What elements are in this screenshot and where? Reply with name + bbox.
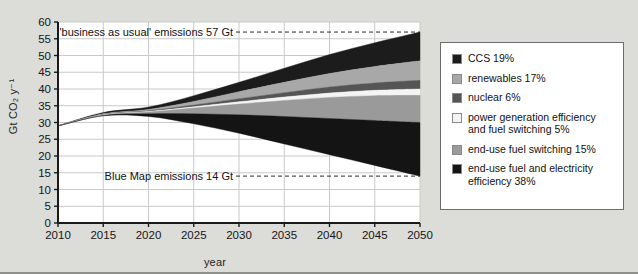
x-tick-label: 2015: [90, 229, 116, 241]
legend-label-end-use-efficiency: end-use fuel and electricity efficiency …: [468, 162, 615, 187]
legend-swatch-power-generation-efficiency: [452, 113, 462, 123]
legend-swatch-renewables: [452, 74, 462, 84]
y-tick-label: 30: [38, 117, 51, 129]
legend-item[interactable]: renewables 17%: [452, 72, 615, 85]
legend-label-nuclear: nuclear 6%: [468, 91, 521, 104]
legend-swatch-end-use-efficiency: [452, 164, 462, 174]
x-tick-label: 2030: [226, 229, 252, 241]
y-tick-label: 5: [45, 200, 51, 212]
legend-swatch-end-use-fuel-switching: [452, 145, 462, 155]
legend-item[interactable]: CCS 19%: [452, 52, 615, 65]
legend-label-power-generation-efficiency: power generation efficiency and fuel swi…: [468, 111, 615, 136]
y-tick-label: 20: [38, 150, 51, 162]
x-axis-title: year: [175, 256, 255, 268]
legend-label-end-use-fuel-switching: end-use fuel switching 15%: [468, 143, 596, 156]
y-tick-label: 50: [38, 50, 51, 62]
legend-swatch-nuclear: [452, 93, 462, 103]
x-tick-label: 2040: [317, 229, 343, 241]
y-axis-title: Gt CO₂ y⁻¹: [7, 70, 20, 144]
y-tick-label: 35: [38, 100, 51, 112]
legend-item[interactable]: power generation efficiency and fuel swi…: [452, 111, 615, 136]
chart-legend: CCS 19% renewables 17% nuclear 6% power …: [440, 42, 624, 210]
x-tick-label: 2020: [136, 229, 162, 241]
y-tick-label: 10: [38, 184, 51, 196]
x-tick-label: 2050: [407, 229, 433, 241]
x-tick-label: 2025: [181, 229, 207, 241]
emissions-wedge-chart: 'business as usual' emissions 57 GtBlue …: [0, 0, 440, 250]
legend-item[interactable]: end-use fuel and electricity efficiency …: [452, 162, 615, 187]
chart-plot-area: 'business as usual' emissions 57 GtBlue …: [0, 0, 440, 250]
x-tick-label: 2010: [45, 229, 71, 241]
legend-item[interactable]: nuclear 6%: [452, 91, 615, 104]
legend-label-renewables: renewables 17%: [468, 72, 546, 85]
annotation-business-as-usual: 'business as usual' emissions 57 Gt: [59, 26, 233, 38]
annotation-blue-map: Blue Map emissions 14 Gt: [105, 170, 233, 182]
y-tick-label: 0: [45, 217, 51, 229]
y-tick-label: 60: [38, 16, 51, 28]
x-tick-label: 2045: [362, 229, 388, 241]
legend-swatch-ccs: [452, 54, 462, 64]
figure-frame: 'business as usual' emissions 57 GtBlue …: [0, 0, 638, 274]
legend-item[interactable]: end-use fuel switching 15%: [452, 143, 615, 156]
y-tick-label: 40: [38, 83, 51, 95]
y-tick-label: 15: [38, 167, 51, 179]
y-tick-label: 45: [38, 66, 51, 78]
y-tick-label: 25: [38, 133, 51, 145]
y-tick-label: 55: [38, 33, 51, 45]
legend-label-ccs: CCS 19%: [468, 52, 514, 65]
x-tick-label: 2035: [271, 229, 297, 241]
